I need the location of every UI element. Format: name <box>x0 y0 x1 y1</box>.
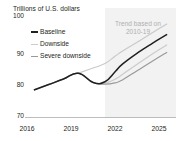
trend-annotation-line2: 2010-19 <box>101 28 175 36</box>
legend-label-baseline: Baseline <box>40 29 65 36</box>
legend-item-severe-downside: Severe downside <box>31 53 91 60</box>
chart-container: Trillions of U.S. dollars 100 90 80 70 2… <box>0 0 180 141</box>
legend-item-downside: Downside <box>31 41 69 48</box>
legend-swatch-downside <box>31 44 38 46</box>
legend-swatch-severe-downside <box>31 56 38 58</box>
legend-item-baseline: Baseline <box>31 29 65 36</box>
legend-swatch-baseline <box>31 31 38 33</box>
trend-annotation-line1: Trend based on <box>101 20 175 28</box>
trend-annotation: Trend based on 2010-19 <box>101 20 175 36</box>
legend-label-downside: Downside <box>40 41 69 48</box>
legend-label-severe-downside: Severe downside <box>40 53 91 60</box>
